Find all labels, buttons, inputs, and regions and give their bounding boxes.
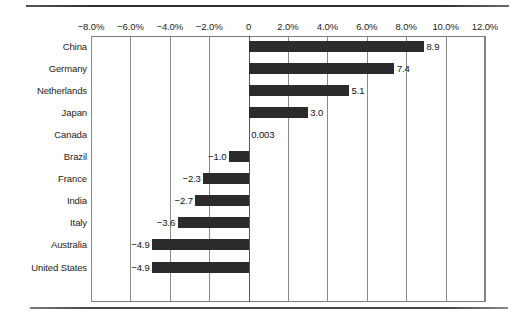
data-label-india: −2.7 — [175, 195, 193, 206]
bar-japan — [249, 107, 308, 118]
gridline-neg8 — [91, 36, 92, 302]
gridline-0 — [249, 36, 250, 302]
bar-germany — [249, 63, 395, 74]
x-tick-label: 12.0% — [472, 21, 498, 32]
gridline-8 — [406, 36, 407, 302]
gridline-2 — [288, 36, 289, 302]
x-tick-label: −2.0% — [196, 21, 223, 32]
data-label-australia: −4.9 — [131, 239, 149, 250]
data-label-germany: 7.4 — [397, 63, 410, 74]
data-label-china: 8.9 — [426, 41, 439, 52]
data-label-netherlands: 5.1 — [352, 85, 365, 96]
x-tick-label: 0 — [246, 21, 251, 32]
x-tick-label: −4.0% — [156, 21, 183, 32]
x-tick-label: 10.0% — [432, 21, 458, 32]
category-label-japan: Japan — [62, 107, 87, 118]
data-label-japan: 3.0 — [310, 107, 323, 118]
category-label-india: India — [67, 195, 87, 206]
data-label-italy: −3.6 — [157, 217, 175, 228]
data-label-canada: 0.003 — [251, 129, 274, 140]
gridline-6 — [367, 36, 368, 302]
bar-netherlands — [249, 85, 349, 96]
bar-italy — [178, 217, 249, 228]
x-tick-label: −8.0% — [78, 21, 105, 32]
data-label-brazil: −1.0 — [208, 151, 226, 162]
gridline-4 — [327, 36, 328, 302]
category-label-brazil: Brazil — [64, 151, 87, 162]
category-label-china: China — [63, 41, 87, 52]
category-label-france: France — [58, 173, 87, 184]
bar-brazil — [229, 151, 249, 162]
horizontal-bar-chart: −8.0%−6.0%−4.0%−2.0%02.0%4.0%6.0%8.0%10.… — [0, 0, 515, 325]
x-tick-label: 6.0% — [356, 21, 377, 32]
bar-india — [195, 195, 248, 206]
bar-china — [249, 41, 424, 52]
gridline-12 — [485, 36, 486, 302]
x-tick-label: −6.0% — [117, 21, 144, 32]
data-label-united-states: −4.9 — [131, 262, 149, 273]
data-label-france: −2.3 — [182, 173, 200, 184]
bar-france — [203, 173, 248, 184]
category-label-germany: Germany — [49, 63, 87, 74]
x-tick-label: 2.0% — [277, 21, 298, 32]
category-label-netherlands: Netherlands — [37, 85, 87, 96]
x-tick-label: 4.0% — [317, 21, 338, 32]
top-divider-rule — [26, 5, 509, 7]
category-label-canada: Canada — [54, 129, 87, 140]
category-label-italy: Italy — [70, 217, 87, 228]
bar-united-states — [152, 262, 249, 273]
category-label-australia: Australia — [51, 239, 87, 250]
category-label-united-states: United States — [31, 262, 87, 273]
bar-australia — [152, 239, 249, 250]
x-tick-label: 8.0% — [396, 21, 417, 32]
bottom-divider-rule — [30, 307, 508, 309]
gridline-10 — [446, 36, 447, 302]
